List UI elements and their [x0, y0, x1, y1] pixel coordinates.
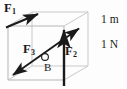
force-label-f1-symbol: F [4, 1, 12, 15]
force-label-f1: F1 [4, 2, 16, 16]
force-diagram-figure: F1 F2 F3 B 1 m 1 N [0, 0, 127, 89]
force-label-f3: F3 [23, 43, 35, 57]
point-b-marker [42, 54, 49, 61]
point-label-b: B [44, 62, 51, 73]
force-label-f2-subscript: 2 [73, 50, 77, 59]
force-label-f2: F2 [65, 45, 77, 59]
scale-label-length: 1 m [101, 14, 119, 26]
force-label-f3-subscript: 3 [31, 48, 35, 57]
force-label-f2-symbol: F [65, 44, 73, 58]
force-label-f1-subscript: 1 [12, 7, 16, 16]
scale-label-force: 1 N [101, 39, 118, 51]
force-label-f3-symbol: F [23, 42, 31, 56]
cube-back-face [32, 12, 88, 66]
